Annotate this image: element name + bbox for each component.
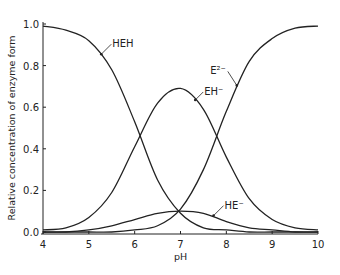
- x-tick-label: 6: [131, 239, 137, 250]
- x-tick-label: 8: [223, 239, 229, 250]
- annotation-arrow: [228, 71, 237, 85]
- annotation-arrow: [214, 206, 224, 216]
- arrow-head: [212, 214, 215, 217]
- x-tick-label: 9: [269, 239, 275, 250]
- y-tick-label: 0.0: [23, 227, 39, 238]
- arrow-head: [235, 84, 238, 87]
- x-tick-label: 5: [86, 239, 92, 250]
- y-tick-label: 1.0: [23, 19, 39, 30]
- curve-label-heh: HEH: [112, 38, 133, 49]
- y-tick-label: 0.4: [23, 144, 39, 155]
- x-tick-label: 7: [177, 239, 183, 250]
- plot-area: 456789100.00.20.40.60.81.0pHRelative con…: [0, 0, 340, 275]
- annotation-arrow: [101, 44, 111, 54]
- y-tick-label: 0.6: [23, 102, 39, 113]
- y-axis-label: Relative concentration of enzyme form: [6, 35, 17, 220]
- x-axis-label: pH: [174, 251, 187, 262]
- titration-chart: 456789100.00.20.40.60.81.0pHRelative con…: [0, 0, 340, 275]
- curve-label-he: HE⁻: [225, 200, 244, 211]
- curve-e2: [43, 26, 318, 232]
- annotation-arrow: [195, 92, 203, 100]
- y-tick-label: 0.2: [23, 185, 39, 196]
- curve-label-eh: EH⁻: [204, 86, 223, 97]
- x-tick-label: 4: [40, 239, 46, 250]
- arrow-head: [100, 53, 103, 56]
- curve-heh: [43, 26, 318, 232]
- curve-label-e2: E²⁻: [210, 65, 226, 76]
- x-tick-label: 10: [312, 239, 325, 250]
- arrow-head: [194, 99, 197, 102]
- y-tick-label: 0.8: [23, 61, 39, 72]
